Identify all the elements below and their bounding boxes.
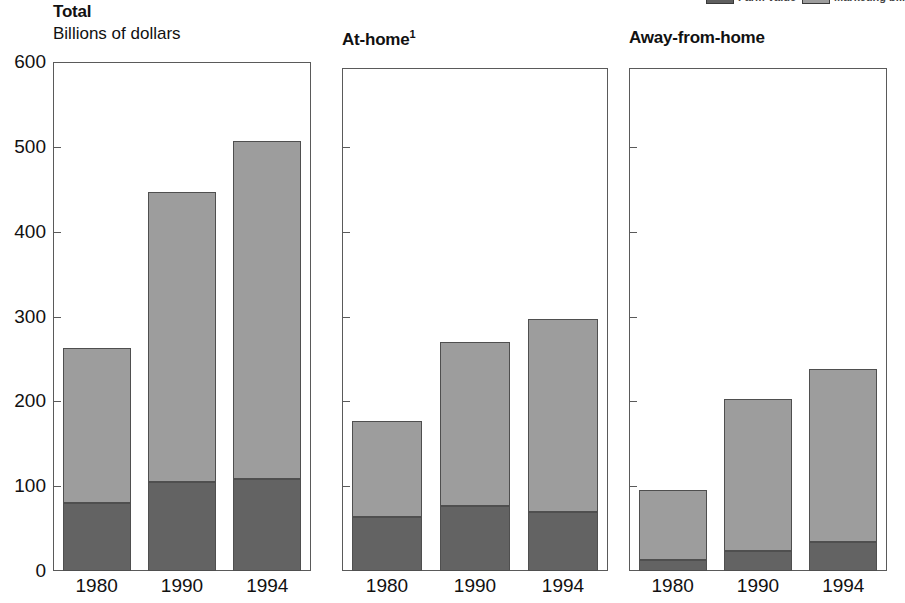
y-axis-tick xyxy=(629,147,637,148)
bar-segment-marketing-bill xyxy=(148,192,216,482)
chart-panel-total: Total Billions of dollars 198019901994 xyxy=(0,0,330,603)
bar-segment-farm-value xyxy=(63,503,131,571)
bar-stack xyxy=(233,141,301,571)
x-axis-tick-label: 1980 xyxy=(630,575,715,597)
y-axis-tick xyxy=(342,486,350,487)
bar-segment-marketing-bill xyxy=(528,319,598,512)
bar-segment-marketing-bill xyxy=(724,399,792,552)
x-axis-tick-label: 1990 xyxy=(431,575,519,597)
y-axis-tick xyxy=(53,486,61,487)
bar-stack xyxy=(809,369,877,571)
y-axis-tick xyxy=(629,317,637,318)
bar-stack xyxy=(724,399,792,571)
bar-segment-marketing-bill xyxy=(352,421,422,517)
x-axis-tick-label: 1990 xyxy=(139,575,224,597)
x-axis-tick-label: 1980 xyxy=(343,575,431,597)
bar-segment-farm-value xyxy=(724,551,792,571)
panel-title-text: At-home xyxy=(342,30,410,49)
bar-stack xyxy=(352,421,422,571)
panel-title: Total xyxy=(53,2,91,22)
bar-stack xyxy=(63,348,131,571)
y-axis-tick xyxy=(53,401,61,402)
bar-segment-marketing-bill xyxy=(809,369,877,542)
y-axis-tick xyxy=(629,486,637,487)
panel-title: Away-from-home xyxy=(629,28,765,48)
bar-stack xyxy=(148,192,216,571)
panel-title: At-home1 xyxy=(342,28,415,50)
bar-stack xyxy=(528,319,598,571)
chart-panel-away-from-home: Away-from-home 198019901994 xyxy=(622,0,890,603)
x-axis-tick-label: 1994 xyxy=(801,575,886,597)
bar-segment-farm-value xyxy=(440,506,510,571)
y-axis-tick xyxy=(53,147,61,148)
y-axis-tick xyxy=(53,232,61,233)
bar-segment-farm-value xyxy=(233,479,301,571)
bar-segment-marketing-bill xyxy=(639,490,707,560)
panel-subtitle: Billions of dollars xyxy=(53,24,181,44)
bar-segment-farm-value xyxy=(809,542,877,571)
bar-segment-marketing-bill xyxy=(440,342,510,506)
chart-panel-at-home: At-home1 198019901994 xyxy=(330,0,622,603)
y-axis-tick xyxy=(342,317,350,318)
bar-segment-farm-value xyxy=(352,517,422,571)
x-axis-tick-label: 1994 xyxy=(519,575,607,597)
bar-stack xyxy=(639,490,707,571)
y-axis-tick xyxy=(342,401,350,402)
footnote-marker: 1 xyxy=(410,28,416,40)
bar-stack xyxy=(440,342,510,571)
x-axis-tick-label: 1980 xyxy=(54,575,139,597)
bar-segment-farm-value xyxy=(528,512,598,571)
bar-segment-marketing-bill xyxy=(233,141,301,479)
bar-segment-farm-value xyxy=(148,482,216,571)
x-axis-tick-label: 1994 xyxy=(225,575,310,597)
y-axis-tick xyxy=(53,317,61,318)
bar-segment-marketing-bill xyxy=(63,348,131,503)
y-axis-tick xyxy=(342,232,350,233)
y-axis-tick xyxy=(342,147,350,148)
bar-segment-farm-value xyxy=(639,560,707,571)
y-axis-tick xyxy=(629,232,637,233)
y-axis-tick xyxy=(629,401,637,402)
x-axis-tick-label: 1990 xyxy=(715,575,800,597)
